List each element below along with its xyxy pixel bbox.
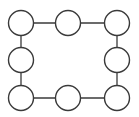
ring-graph-diagram xyxy=(0,0,139,117)
node-n6 xyxy=(56,86,81,111)
node-n4 xyxy=(105,48,130,73)
node-n5 xyxy=(105,86,130,111)
node-n1 xyxy=(9,11,34,36)
node-n7 xyxy=(9,86,34,111)
node-n8 xyxy=(9,48,34,73)
node-n2 xyxy=(56,11,81,36)
node-n3 xyxy=(105,11,130,36)
nodes xyxy=(9,11,130,111)
